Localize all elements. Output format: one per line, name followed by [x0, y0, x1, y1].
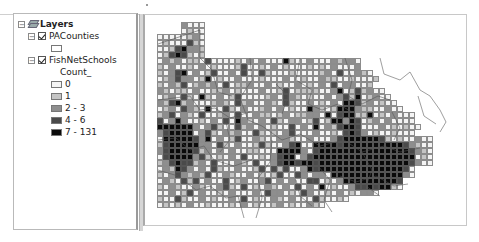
legend-class-4[interactable]: 7 - 131 — [51, 126, 97, 138]
class-symbol-swatch[interactable] — [51, 129, 62, 136]
toc-root-layers[interactable]: − Layers — [18, 18, 73, 30]
toc-pacounties-symbol[interactable] — [51, 42, 65, 54]
collapse-icon[interactable]: − — [28, 57, 35, 64]
toc-layer-fishnetschools[interactable]: − FishNetSchools — [28, 54, 117, 66]
class-label: 7 - 131 — [65, 127, 97, 137]
collapse-icon[interactable]: − — [28, 33, 35, 40]
legend-class-3[interactable]: 4 - 6 — [51, 114, 85, 126]
class-symbol-swatch[interactable] — [51, 81, 62, 88]
fishnet-cell — [415, 124, 421, 130]
legend-class-2[interactable]: 2 - 3 — [51, 102, 85, 114]
collapse-icon[interactable]: − — [18, 21, 25, 28]
table-of-contents-panel: − Layers − PACounties − FishNetSchools C… — [13, 13, 138, 230]
fishnet-cell — [409, 172, 415, 178]
layer-visibility-checkbox[interactable] — [38, 32, 46, 40]
class-label: 1 — [65, 91, 71, 101]
class-symbol-swatch[interactable] — [51, 105, 62, 112]
fishnet-cell — [373, 190, 379, 196]
polygon-symbol-swatch[interactable] — [51, 45, 62, 52]
layer-visibility-checkbox[interactable] — [38, 56, 46, 64]
legend-class-1[interactable]: 1 — [51, 90, 71, 102]
fishnet-cell — [427, 160, 433, 166]
toc-root-label: Layers — [40, 19, 73, 29]
layer-name: FishNetSchools — [49, 55, 117, 65]
class-symbol-swatch[interactable] — [51, 117, 62, 124]
cursor-dot — [146, 4, 148, 6]
field-name: Count_ — [60, 67, 91, 77]
class-label: 4 - 6 — [65, 115, 85, 125]
fishnet-cell — [373, 76, 379, 82]
fishnet-cell — [397, 184, 403, 190]
legend-class-0[interactable]: 0 — [51, 78, 71, 90]
class-label: 2 - 3 — [65, 103, 85, 113]
class-symbol-swatch[interactable] — [51, 93, 62, 100]
class-label: 0 — [65, 79, 71, 89]
fishnet-cell — [319, 202, 325, 208]
fishnet-cell — [343, 196, 349, 202]
layers-icon — [28, 20, 37, 28]
toc-layer-pacounties[interactable]: − PACounties — [28, 30, 99, 42]
toc-field-label: Count_ — [60, 66, 91, 78]
layer-name: PACounties — [49, 31, 99, 41]
